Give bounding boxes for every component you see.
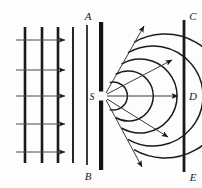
plane-wavefront-group (25, 25, 87, 165)
barrier-lower-segment (99, 101, 103, 171)
label-screen-bottom: E (189, 171, 197, 183)
label-barrier-top: A (84, 10, 92, 22)
label-screen-middle: D (188, 90, 197, 102)
label-barrier-bottom: B (85, 170, 92, 182)
label-screen-top: C (189, 10, 197, 22)
diagram-canvas: A B S C D E (0, 0, 202, 188)
barrier-upper-segment (99, 22, 103, 92)
diffraction-diagram: A B S C D E (0, 0, 202, 188)
label-slit: S (90, 91, 95, 102)
barrier-AB (99, 22, 103, 170)
radial-ray (107, 60, 172, 94)
